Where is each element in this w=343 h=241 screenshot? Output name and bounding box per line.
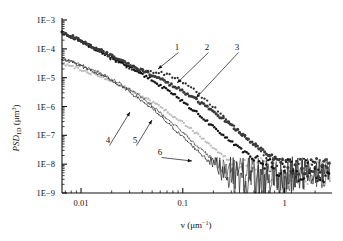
series-2-point bbox=[201, 116, 203, 118]
series-6-point bbox=[230, 157, 231, 158]
series-3-point bbox=[304, 172, 307, 175]
series-6-point bbox=[284, 177, 285, 178]
series-6-point bbox=[112, 80, 113, 81]
series-2-point bbox=[240, 147, 242, 149]
series-2-point bbox=[303, 177, 305, 179]
callout-label-2: 2 bbox=[205, 42, 210, 52]
series-4-point bbox=[161, 107, 163, 109]
series-3-point bbox=[181, 88, 184, 91]
series-6-point bbox=[226, 179, 227, 180]
series-1-point bbox=[152, 72, 154, 74]
series-2-point bbox=[215, 128, 217, 130]
series-2-point bbox=[226, 136, 228, 138]
series-3-point bbox=[285, 159, 288, 162]
series-1-point bbox=[171, 76, 173, 78]
series-6-point bbox=[241, 173, 242, 174]
series-3-point bbox=[177, 86, 180, 89]
series-2-point bbox=[292, 170, 294, 172]
series-1-point bbox=[265, 157, 267, 159]
series-6-point bbox=[234, 191, 235, 192]
y-tick-label: 1E−9 bbox=[37, 188, 56, 198]
series-4-point bbox=[224, 155, 226, 157]
series-5-point bbox=[269, 171, 270, 172]
series-3-point bbox=[256, 145, 259, 148]
series-6-point bbox=[101, 75, 102, 76]
y-tick-label: 1E−8 bbox=[37, 159, 56, 169]
series-3-point bbox=[222, 116, 225, 119]
series-6-point bbox=[323, 164, 324, 165]
series-4-point bbox=[190, 127, 192, 129]
series-5-point bbox=[280, 189, 281, 190]
series-6-point bbox=[133, 96, 134, 97]
series-2-point bbox=[231, 140, 233, 142]
series-5-point bbox=[201, 149, 202, 150]
series-5-point bbox=[169, 120, 170, 121]
series-3-point bbox=[310, 158, 313, 161]
series-6-point bbox=[119, 85, 120, 86]
series-5-point bbox=[241, 163, 242, 164]
series-4-point bbox=[220, 153, 222, 155]
series-2-point bbox=[159, 84, 161, 86]
x-axis-title-close: ) bbox=[209, 220, 212, 230]
series-6-point bbox=[122, 87, 123, 88]
series-3-point bbox=[105, 51, 108, 54]
series-4-point bbox=[199, 135, 201, 137]
series-4-point bbox=[183, 122, 185, 124]
series-5-point bbox=[273, 163, 274, 164]
series-5-point bbox=[83, 64, 84, 65]
series-5-point bbox=[212, 158, 213, 159]
series-2-point bbox=[222, 134, 224, 136]
series-3-point bbox=[286, 166, 289, 169]
series-3-point bbox=[102, 50, 105, 53]
series-4-point bbox=[165, 109, 167, 111]
y-axis-title-units: (μm bbox=[11, 110, 21, 127]
y-tick-label: 1E−3 bbox=[37, 15, 56, 25]
series-3-point bbox=[328, 162, 331, 165]
series-3-point bbox=[281, 158, 284, 161]
series-6-point bbox=[76, 65, 77, 66]
series-5-point bbox=[305, 169, 306, 170]
series-6-point bbox=[176, 132, 177, 133]
callout-label-6: 6 bbox=[158, 147, 163, 157]
series-6-point bbox=[148, 106, 149, 107]
series-5-point bbox=[130, 90, 131, 91]
series-6-point bbox=[191, 143, 192, 144]
series-5-point bbox=[101, 73, 102, 74]
series-4-point bbox=[147, 98, 149, 100]
series-6-point bbox=[130, 91, 131, 92]
series-1-point bbox=[195, 91, 197, 93]
series-6-point bbox=[237, 175, 238, 176]
series-6-point bbox=[251, 171, 252, 172]
series-2-point bbox=[265, 163, 267, 165]
series-2-point bbox=[283, 170, 285, 172]
series-1-point bbox=[306, 165, 308, 167]
series-2-point bbox=[186, 103, 188, 105]
series-4-point bbox=[202, 138, 204, 140]
callout-label-5: 5 bbox=[133, 135, 138, 145]
x-tick-label: 0.1 bbox=[177, 198, 188, 208]
series-3-point bbox=[292, 172, 295, 175]
series-2-point bbox=[174, 93, 176, 95]
series-4-point bbox=[215, 149, 217, 151]
series-5-point bbox=[309, 180, 310, 181]
x-axis-title-units: (μm bbox=[185, 220, 202, 230]
series-6-point bbox=[287, 162, 288, 163]
series-6-point bbox=[208, 160, 209, 161]
series-6-point bbox=[312, 179, 313, 180]
series-2-point bbox=[314, 168, 316, 170]
series-5-point bbox=[323, 185, 324, 186]
series-6-point bbox=[295, 186, 296, 187]
series-2-point bbox=[197, 113, 199, 115]
series-4-point bbox=[84, 70, 86, 72]
series-3-point bbox=[141, 68, 144, 71]
series-2-point bbox=[256, 155, 258, 157]
series-2-point bbox=[272, 167, 274, 169]
series-3-point bbox=[306, 175, 309, 178]
series-3-point bbox=[297, 173, 300, 176]
series-2-point bbox=[324, 174, 326, 176]
series-2-point bbox=[206, 119, 208, 121]
series-6-point bbox=[140, 100, 141, 101]
series-5-point bbox=[104, 74, 105, 75]
series-2-point bbox=[306, 162, 308, 164]
series-6-point bbox=[262, 160, 263, 161]
